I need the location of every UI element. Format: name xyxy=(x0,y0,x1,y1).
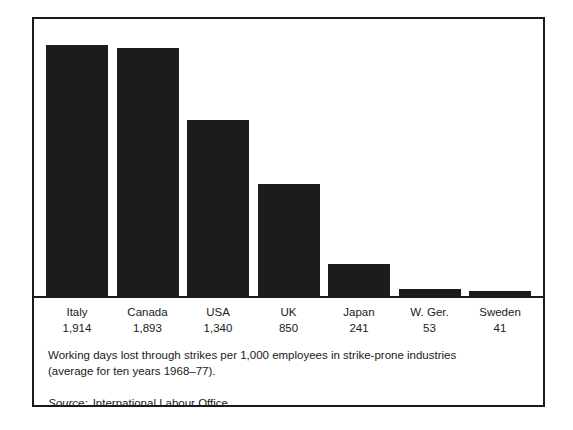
category-label: USA xyxy=(187,304,249,320)
category-label: UK xyxy=(258,304,320,320)
value-label: 41 xyxy=(469,320,531,336)
value-label: 1,893 xyxy=(117,320,179,336)
bar-series xyxy=(46,27,531,296)
chart-figure: Italy 1,914 Canada 1,893 USA 1,340 UK 85… xyxy=(32,17,545,407)
category-label: Sweden xyxy=(469,304,531,320)
axis-label-group: Sweden 41 xyxy=(469,304,531,336)
axis-label-group: USA 1,340 xyxy=(187,304,249,336)
axis-baseline xyxy=(34,296,543,298)
bar-column xyxy=(328,27,390,296)
value-label: 241 xyxy=(328,320,390,336)
axis-label-group: Japan 241 xyxy=(328,304,390,336)
caption-text: Working days lost through strikes per 1,… xyxy=(48,347,500,379)
category-axis-labels: Italy 1,914 Canada 1,893 USA 1,340 UK 85… xyxy=(46,304,531,336)
value-label: 1,914 xyxy=(46,320,108,336)
source-value: International Labour Office. xyxy=(93,397,232,407)
axis-label-group: Italy 1,914 xyxy=(46,304,108,336)
bar-usa xyxy=(187,120,249,296)
bar-column xyxy=(187,27,249,296)
category-label: Italy xyxy=(46,304,108,320)
bar-italy xyxy=(46,45,108,296)
bar-column xyxy=(46,27,108,296)
category-label: Japan xyxy=(328,304,390,320)
source-line: Source:International Labour Office. xyxy=(48,379,529,407)
bar-uk xyxy=(258,184,320,296)
axis-label-group: Canada 1,893 xyxy=(117,304,179,336)
axis-label-group: UK 850 xyxy=(258,304,320,336)
value-label: 53 xyxy=(399,320,461,336)
bar-column xyxy=(117,27,179,296)
plot-area xyxy=(34,19,543,296)
axis-label-group: W. Ger. 53 xyxy=(399,304,461,336)
bar-canada xyxy=(117,48,179,296)
bar-column xyxy=(258,27,320,296)
category-label: W. Ger. xyxy=(399,304,461,320)
bar-w-ger xyxy=(399,289,461,296)
figure-caption: Working days lost through strikes per 1,… xyxy=(48,347,529,407)
bar-column xyxy=(469,27,531,296)
value-label: 1,340 xyxy=(187,320,249,336)
bar-column xyxy=(399,27,461,296)
value-label: 850 xyxy=(258,320,320,336)
category-label: Canada xyxy=(117,304,179,320)
bar-japan xyxy=(328,264,390,296)
source-label: Source: xyxy=(48,397,88,407)
